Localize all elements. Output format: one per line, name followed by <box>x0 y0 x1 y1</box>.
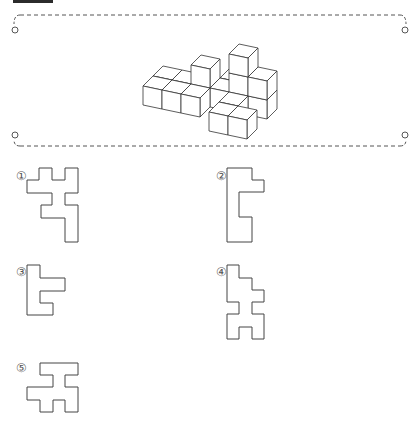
option-shapes <box>0 0 419 433</box>
option-5-shape <box>27 363 78 412</box>
option-4-shape <box>227 265 264 339</box>
option-2-shape <box>227 168 264 242</box>
answer-options: ① ② ③ ④ ⑤ <box>0 0 419 433</box>
option-1-shape <box>27 168 78 242</box>
option-3-shape <box>27 265 65 315</box>
